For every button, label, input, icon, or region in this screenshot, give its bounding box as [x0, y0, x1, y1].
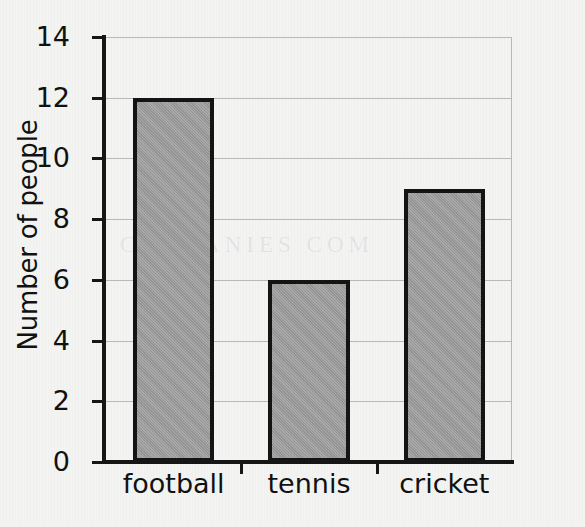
y-axis-tick [92, 97, 103, 100]
bar-football [133, 98, 214, 462]
gridline [106, 37, 512, 38]
x-axis-label-cricket: cricket [377, 470, 512, 497]
y-axis-tick [92, 340, 103, 343]
y-axis-tick-label: 6 [14, 266, 70, 293]
bar-tennis [268, 280, 349, 462]
y-axis-tick [92, 461, 103, 464]
y-axis-tick [92, 218, 103, 221]
y-axis-tick [92, 279, 103, 282]
y-axis-tick [92, 157, 103, 160]
x-axis-line [102, 460, 514, 464]
y-axis-tick-label: 0 [14, 448, 70, 475]
x-axis-label-football: football [106, 470, 241, 497]
y-axis-tick-label: 8 [14, 205, 70, 232]
y-axis-tick-label: 4 [14, 327, 70, 354]
y-axis-tick-label: 2 [14, 387, 70, 414]
x-axis-label-tennis: tennis [241, 470, 376, 497]
plot-area [106, 37, 512, 462]
bar-chart-figure: Number of people COMPANIES COM 024681012… [0, 0, 585, 527]
y-axis-tick [92, 36, 103, 39]
y-axis-tick [92, 400, 103, 403]
plot-right-border [511, 37, 512, 462]
y-axis-tick-label: 10 [14, 144, 70, 171]
y-axis-tick-label: 14 [14, 23, 70, 50]
bar-cricket [404, 189, 485, 462]
y-axis-tick-label: 12 [14, 84, 70, 111]
